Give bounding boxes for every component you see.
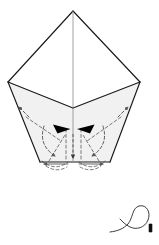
- paper-panels: [8, 11, 140, 162]
- repeat-loop-arrowhead: [149, 224, 152, 232]
- repeat-loop-path: [110, 206, 149, 232]
- origami-diagram: Origami folding step diagram: [0, 0, 159, 245]
- origami-figure-canvas: [0, 0, 159, 245]
- repeat-loop-symbol: [110, 206, 152, 232]
